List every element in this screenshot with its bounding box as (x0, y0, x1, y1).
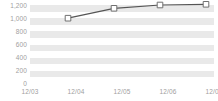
y-axis: 1,200 1,000 800 600 400 200 0 (0, 0, 27, 101)
x-axis-tick-label: 12/07 (206, 88, 218, 96)
data-point-marker (157, 2, 163, 8)
line-chart: 1,200 1,000 800 600 400 200 0 12/03 12/0… (0, 0, 218, 101)
y-axis-tick-label: 0 (0, 80, 27, 87)
data-point-marker (203, 2, 209, 8)
x-axis-tick-label: 12/04 (68, 88, 85, 96)
x-axis-tick-label: 12/06 (160, 88, 177, 96)
plot-area (30, 5, 214, 84)
data-point-marker (65, 15, 71, 21)
y-axis-tick-label: 1,200 (0, 2, 27, 9)
x-axis-tick-label: 12/03 (22, 88, 39, 96)
x-axis: 12/03 12/04 12/05 12/06 12/07 (30, 88, 214, 98)
data-point-marker (111, 6, 117, 12)
y-axis-tick-label: 400 (0, 54, 27, 61)
y-axis-tick-label: 1,000 (0, 15, 27, 22)
data-line (68, 4, 206, 18)
x-axis-tick-label: 12/05 (114, 88, 131, 96)
y-axis-tick-label: 600 (0, 41, 27, 48)
data-series-layer (30, 5, 214, 84)
y-axis-tick-label: 200 (0, 67, 27, 74)
y-axis-tick-label: 800 (0, 28, 27, 35)
